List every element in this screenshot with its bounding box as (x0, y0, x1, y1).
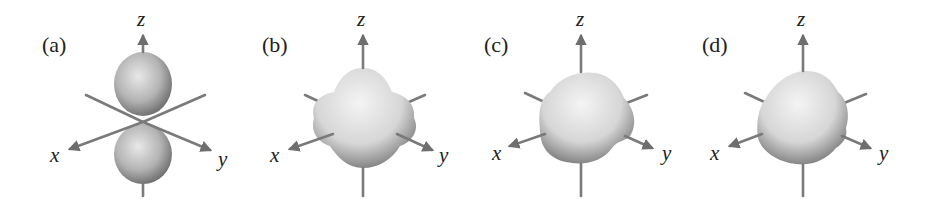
axis-y (842, 136, 870, 148)
axis-label-z: z (796, 7, 805, 31)
panel-d-label: (d) (702, 32, 728, 57)
axis-label-y: y (216, 147, 228, 171)
figure-canvas: (a) z x y (b) z x y (c) (0, 0, 933, 203)
upper-lobe (114, 52, 172, 116)
panel-c-label: (c) (484, 32, 508, 57)
irregular-surface (757, 71, 848, 164)
panel-b: (b) z x y (262, 7, 449, 196)
axis-label-z: z (136, 7, 145, 31)
axis-label-y: y (877, 141, 889, 165)
axis-x (730, 134, 762, 146)
axis-x (510, 134, 545, 146)
panel-c: (c) z x y (484, 7, 672, 196)
cloverleaf-surface (313, 68, 416, 168)
tetrahedral-surface (539, 73, 634, 164)
panel-a: (a) z x y (42, 7, 228, 196)
panel-b-label: (b) (262, 32, 288, 57)
panel-a-label: (a) (42, 32, 66, 57)
axis-label-x: x (49, 143, 60, 167)
axis-label-y: y (437, 143, 449, 167)
axis-label-x: x (709, 141, 720, 165)
lower-lobe (114, 124, 172, 184)
axis-label-x: x (491, 141, 502, 165)
axis-y (625, 136, 652, 148)
axis-label-y: y (660, 141, 672, 165)
axis-label-x: x (269, 143, 280, 167)
axis-label-z: z (356, 7, 365, 31)
axis-label-z: z (575, 7, 584, 31)
panel-d: (d) z x y (702, 7, 889, 196)
